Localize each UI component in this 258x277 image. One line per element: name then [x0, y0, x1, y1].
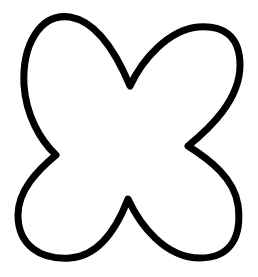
shape-outline: [18, 17, 240, 259]
four-lobed-outline-shape: [0, 0, 258, 277]
drawing-canvas: [0, 0, 258, 277]
